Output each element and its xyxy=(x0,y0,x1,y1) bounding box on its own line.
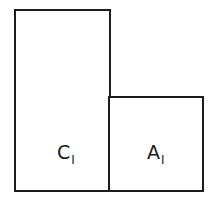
block-a1-label-subscript: I xyxy=(161,153,165,167)
block-c1-label-subscript: I xyxy=(71,153,75,167)
block-c1-label-main: C xyxy=(57,141,70,163)
block-a1-label: AI xyxy=(147,143,165,162)
block-c1 xyxy=(14,9,111,192)
block-c1-label: CI xyxy=(57,143,75,162)
block-a1-label-main: A xyxy=(147,141,160,163)
